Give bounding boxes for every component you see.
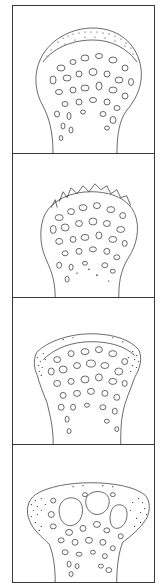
bone-head-drawing-2 <box>13 154 154 297</box>
panel-stage-3: stage-3 <box>13 297 154 444</box>
bone-head-drawing-3 <box>13 298 154 444</box>
panel-stage-1: stage-1 <box>13 6 154 153</box>
panel-stage-2: stage-2 <box>13 153 154 297</box>
panel-stage-4: stage-4 <box>13 444 154 582</box>
bone-head-drawing-1 <box>13 6 154 153</box>
bone-head-drawing-4 <box>13 445 154 582</box>
figure-frame: stage-1 <box>12 5 155 583</box>
